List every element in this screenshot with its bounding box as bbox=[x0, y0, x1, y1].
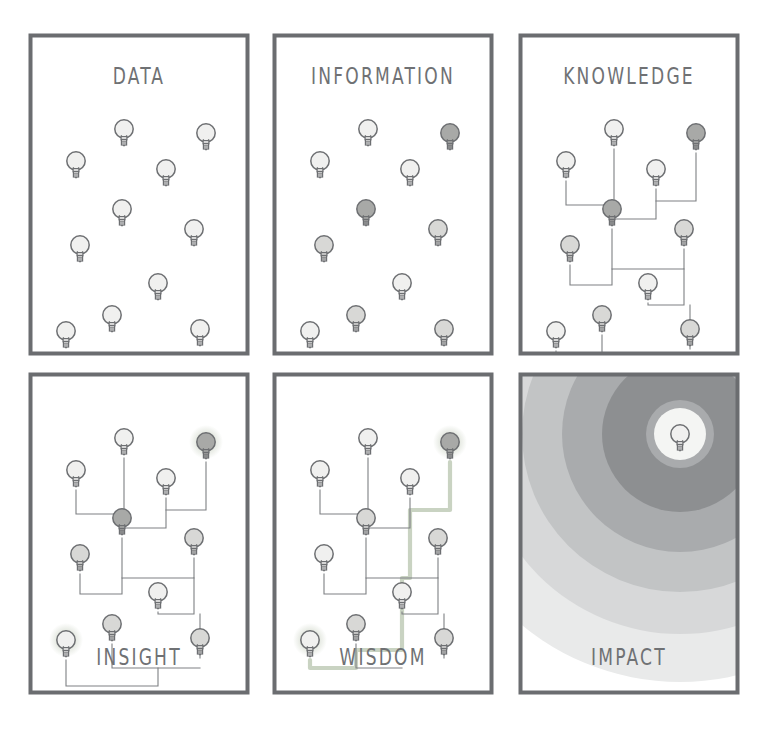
panel-title-impact: IMPACT bbox=[518, 644, 740, 670]
panel-wisdom[interactable]: WISDOM bbox=[272, 372, 494, 695]
panel-data[interactable]: DATA bbox=[28, 33, 250, 356]
panel-title-data: DATA bbox=[28, 63, 250, 89]
panel-information[interactable]: INFORMATION bbox=[272, 33, 494, 356]
panel-title-knowledge: KNOWLEDGE bbox=[518, 63, 740, 89]
panel-title-insight: INSIGHT bbox=[28, 644, 250, 670]
panel-knowledge[interactable]: KNOWLEDGE bbox=[518, 33, 740, 356]
panel-impact[interactable]: IMPACT bbox=[518, 372, 740, 695]
dikw-impact-diagram: DATAINFORMATIONKNOWLEDGEINSIGHTWISDOMIMP… bbox=[0, 0, 776, 729]
panel-title-wisdom: WISDOM bbox=[272, 644, 494, 670]
panel-title-information: INFORMATION bbox=[272, 63, 494, 89]
panel-insight[interactable]: INSIGHT bbox=[28, 372, 250, 695]
